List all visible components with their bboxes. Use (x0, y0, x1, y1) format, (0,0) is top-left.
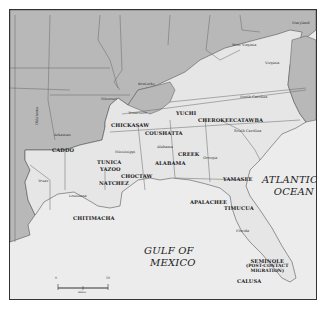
state-label-arkansas: Arkansas (54, 134, 71, 138)
state-label-oklahoma: Oklahoma (36, 107, 40, 125)
state-label-georgia: Georgia (203, 157, 217, 161)
tribe-label-yamasee: YAMASEE (223, 177, 253, 182)
state-label-kentucky: Kentucky (138, 83, 155, 87)
tribe-label-coushatta: COUSHATTA (145, 131, 183, 136)
atlantic-ocean-label: ATLANTIC OCEAN (262, 175, 317, 197)
gulf-of-mexico-label: GULF OF MEXICO (142, 246, 196, 268)
tribe-label-yazoo: YAZOO (100, 167, 121, 172)
state-label-north-carolina: North Carolina (240, 96, 267, 100)
tribe-label-caddo: CADDO (52, 148, 74, 153)
state-label-missouri: Missouri (101, 98, 117, 102)
scale-bar-right-tick: 50 (106, 277, 110, 280)
state-label-south-carolina: South Carolina (234, 130, 261, 134)
state-label-maryland: Maryland (292, 22, 309, 26)
state-label-florida: Florida (236, 230, 249, 234)
atlantic-line1: ATLANTIC (262, 175, 317, 185)
state-label-virginia: Virginia (265, 62, 279, 66)
state-label-tennessee: Tennessee (128, 112, 147, 116)
scale-bar-left-tick: 0 (55, 277, 57, 280)
tribe-label-calusa: CALUSA (237, 279, 261, 284)
tribe-label-tunica: TUNICA (97, 160, 121, 165)
tribe-label-cherokee: CHEROKEE (198, 118, 233, 123)
gulf-line1: GULF OF (142, 246, 196, 256)
tribe-label-catawba: CATAWBA (233, 118, 263, 123)
state-label-texas: Texas (38, 180, 48, 184)
tribe-label-alabama: ALABAMA (155, 161, 186, 166)
tribe-label-apalachee: APALACHEE (190, 200, 227, 205)
tribe-label-chickasaw: CHICKASAW (111, 123, 149, 128)
state-label-mississippi: Mississippi (115, 151, 135, 155)
tribe-label-timucua: TIMUCUA (224, 206, 254, 211)
tribe-label-chitimacha: CHITIMACHA (73, 216, 115, 221)
state-label-alabama: Alabama (157, 146, 173, 150)
tribe-label-choctaw: CHOCTAW (121, 174, 153, 179)
tribe-label-seminole: SEMINOLE (POST-CONTACT MIGRATION) (246, 259, 289, 273)
atlantic-line2: OCEAN (270, 187, 317, 197)
scale-bar-unit: miles (78, 291, 86, 294)
state-label-west-virginia: West Virginia (232, 44, 256, 48)
gulf-line2: MEXICO (150, 258, 196, 268)
tribe-label-natchez: NATCHEZ (99, 181, 129, 186)
tribe-label-yuchi: YUCHI (176, 111, 196, 116)
seminole-line3: MIGRATION) (246, 269, 289, 273)
tribe-label-creek: CREEK (178, 152, 199, 157)
state-label-louisiana: Louisiana (69, 195, 87, 199)
map-frame: ATLANTIC OCEAN GULF OF MEXICO Oklahoma M… (9, 9, 317, 300)
